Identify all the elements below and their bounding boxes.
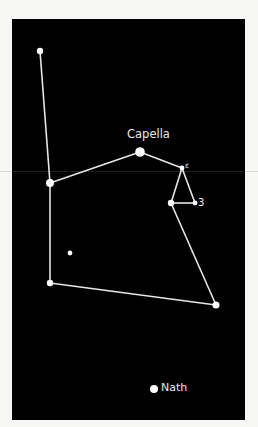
- star-bottom-left: [47, 280, 53, 286]
- star-left-mid: [46, 179, 54, 187]
- star-lone: [68, 251, 73, 256]
- constellation-line: [140, 152, 182, 168]
- constellation-line: [182, 168, 195, 203]
- star-nath: [150, 385, 158, 393]
- constellation-line: [171, 203, 216, 305]
- star-label-zeta: 3: [198, 198, 204, 208]
- constellation-line: [50, 283, 216, 305]
- constellation-line: [40, 51, 50, 183]
- star-epsilon: [180, 166, 185, 171]
- star-top-left: [37, 48, 43, 54]
- star-triangle-left: [168, 200, 174, 206]
- constellation-diagram: [0, 0, 258, 427]
- constellation-lines: [40, 51, 216, 305]
- star-bottom-right: [213, 302, 220, 309]
- star-zeta: [193, 201, 198, 206]
- star-capella: [135, 147, 145, 157]
- star-label-nath: Nath: [161, 382, 187, 393]
- constellation-stars: [37, 48, 220, 393]
- star-label-epsilon: ε: [185, 162, 189, 170]
- constellation-line: [50, 152, 140, 183]
- constellation-line: [171, 168, 182, 203]
- star-label-capella: Capella: [127, 129, 170, 141]
